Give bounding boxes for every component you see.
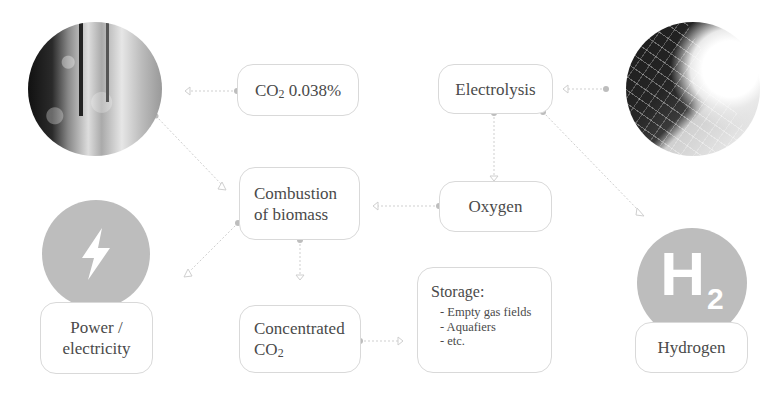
concentrated-co2-node[interactable]: ConcentratedCO2 xyxy=(239,305,361,373)
hydrogen-label: Hydrogen xyxy=(658,337,726,358)
h2-molecule-icon: H2 xyxy=(660,243,723,316)
power-node[interactable]: Power /electricity xyxy=(40,302,153,374)
electrolysis-label: Electrolysis xyxy=(455,79,535,100)
combustion-node[interactable]: Combustionof biomass xyxy=(239,167,360,240)
forest-photo xyxy=(28,22,162,156)
tree-trunk xyxy=(106,22,109,102)
power-icon-circle xyxy=(42,200,150,308)
hydrogen-node[interactable]: Hydrogen xyxy=(635,322,748,373)
oxygen-node[interactable]: Oxygen xyxy=(439,181,552,232)
storage-title: Storage: xyxy=(431,282,551,302)
tree-trunk xyxy=(79,22,83,116)
concentrated-co2-label: ConcentratedCO2 xyxy=(254,318,345,360)
co2-air-label: CO2 0.038% xyxy=(255,80,341,101)
storage-item: - etc. xyxy=(431,334,551,349)
combustion-label: Combustionof biomass xyxy=(254,183,337,225)
panel-grid xyxy=(626,22,760,156)
co2-air-node[interactable]: CO2 0.038% xyxy=(237,64,359,116)
storage-node[interactable]: Storage: - Empty gas fields - Aquafiers … xyxy=(417,267,552,373)
oxygen-label: Oxygen xyxy=(469,196,523,217)
solar-panel-photo xyxy=(626,22,760,156)
lightning-bolt-icon xyxy=(76,226,116,282)
storage-item: - Empty gas fields xyxy=(431,305,551,320)
power-label: Power /electricity xyxy=(63,317,131,359)
storage-item: - Aquafiers xyxy=(431,320,551,335)
electrolysis-node[interactable]: Electrolysis xyxy=(438,64,553,114)
